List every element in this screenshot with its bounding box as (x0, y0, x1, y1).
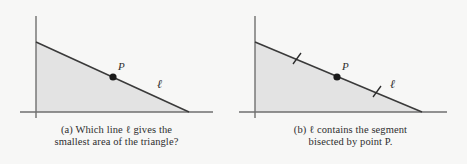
figure-panel-a: P ℓ (a) Which line ℓ gives the smallest … (0, 0, 233, 164)
line-ell-label-a: ℓ (157, 77, 162, 91)
point-p-dot-a (109, 73, 116, 80)
caption-b-line1: (b) ℓ contains the segment (234, 124, 467, 136)
line-ell-label-b: ℓ (390, 77, 395, 91)
point-p-label-b: P (341, 60, 349, 72)
caption-b: (b) ℓ contains the segment bisected by p… (234, 124, 467, 149)
point-p-label-a: P (117, 60, 125, 72)
caption-a-line1: (a) Which line ℓ gives the (0, 124, 233, 136)
caption-a-line2: smallest area of the triangle? (0, 136, 233, 148)
point-p-dot-b (333, 73, 340, 80)
caption-b-line2: bisected by point P. (234, 136, 467, 148)
diagram-a: P ℓ (0, 0, 233, 124)
figure-root: P ℓ (a) Which line ℓ gives the smallest … (0, 0, 467, 164)
diagram-b: P ℓ (234, 0, 467, 124)
caption-a: (a) Which line ℓ gives the smallest area… (0, 124, 233, 149)
figure-panel-b: P ℓ (b) ℓ contains the segment bisected … (234, 0, 467, 164)
